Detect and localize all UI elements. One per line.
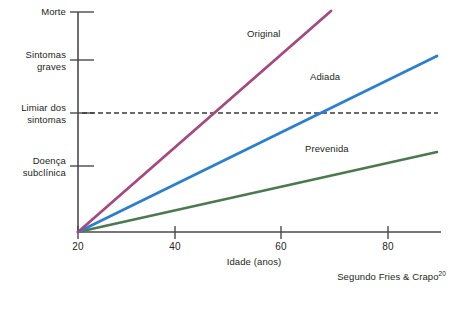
- series-line-adiada: [78, 56, 437, 232]
- y-axis-label-sintomas-graves: Sintomas graves: [0, 49, 66, 72]
- x-tick-label-80: 80: [373, 241, 403, 253]
- source-note-superscript: 20: [439, 270, 446, 277]
- y-axis-label-limiar-sintomas: Limiar dos sintomas: [0, 102, 66, 125]
- series-label-adiada: Adiada: [310, 71, 340, 83]
- y-axis-label-doenca-subclinica: Doença subclínica: [0, 155, 66, 178]
- series-label-prevenida: Prevenida: [305, 143, 349, 155]
- x-tick-label-20: 20: [63, 241, 93, 253]
- series-label-original: Original: [247, 28, 281, 40]
- x-tick-label-60: 60: [266, 241, 296, 253]
- chart-figure: Morte Sintomas graves Limiar dos sintoma…: [0, 0, 455, 310]
- series-line-original: [78, 11, 331, 232]
- source-note-text: Segundo Fries & Crapo: [337, 271, 438, 282]
- y-axis-label-morte: Morte: [0, 6, 66, 18]
- x-tick-label-40: 40: [160, 241, 190, 253]
- series-line-prevenida: [78, 152, 437, 232]
- source-note: Segundo Fries & Crapo20: [251, 271, 446, 283]
- x-axis-title: Idade (anos): [194, 256, 314, 268]
